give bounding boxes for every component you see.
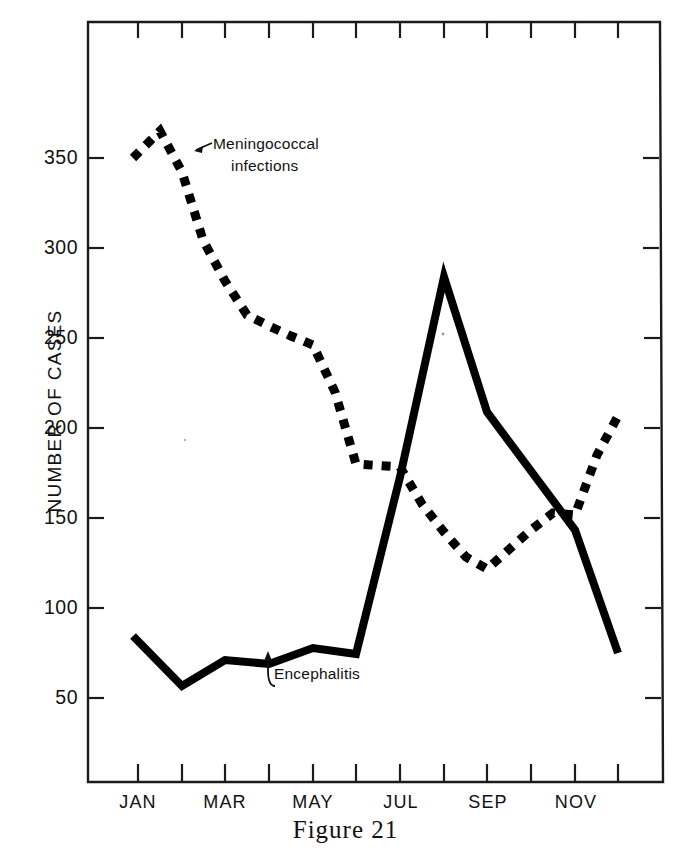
scan-speck [442, 333, 445, 336]
y-axis-ticks-right [643, 158, 661, 698]
chart-plot-area [0, 0, 691, 863]
meningococcal-line [133, 131, 618, 569]
y-tick-label-350: 350 [18, 146, 78, 169]
y-tick-label-300: 300 [18, 236, 78, 259]
x-tick-label-may: MAY [278, 792, 348, 813]
x-tick-label-jan: JAN [103, 792, 173, 813]
figure-caption: Figure 21 [0, 816, 691, 844]
y-tick-label-100: 100 [18, 596, 78, 619]
series-encephalitis [133, 277, 618, 686]
figure-21: NUMBER OF CASES 50 100 150 200 250 300 3… [0, 0, 691, 863]
annotation-meningococcal-line2: infections [213, 155, 319, 177]
series-meningococcal-infections [133, 131, 618, 569]
x-tick-label-mar: MAR [190, 792, 260, 813]
x-tick-label-jul: JUL [366, 792, 436, 813]
y-axis-ticks-left [88, 158, 104, 698]
annotation-encephalitis: Encephalitis [274, 665, 360, 683]
y-tick-label-50: 50 [18, 686, 78, 709]
y-tick-label-150: 150 [18, 506, 78, 529]
axis-frame [88, 22, 663, 782]
encephalitis-line [133, 277, 618, 686]
annotation-meningococcal: Meningococcal infections [213, 133, 319, 178]
y-tick-label-250: 250 [18, 326, 78, 349]
bottom-axis-ticks [138, 764, 618, 782]
plot-border [88, 22, 663, 782]
y-axis-title: NUMBER OF CASES [44, 281, 66, 541]
annotation-meningococcal-line1: Meningococcal [213, 135, 319, 152]
x-tick-label-sep: SEP [453, 792, 523, 813]
y-tick-label-200: 200 [18, 416, 78, 439]
x-tick-label-nov: NOV [541, 792, 611, 813]
top-axis-ticks [138, 22, 618, 38]
meningococcal-pointer-arrow [194, 143, 212, 153]
scan-speck [184, 439, 186, 441]
